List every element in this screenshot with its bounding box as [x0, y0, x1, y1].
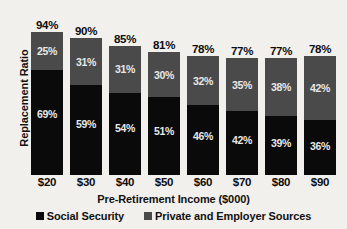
- bar-segment-label: 39%: [265, 137, 297, 149]
- legend-entry-social-security: Social Security: [36, 210, 124, 222]
- x-axis-tick-label: $50: [148, 176, 180, 188]
- legend-label-private-employer: Private and Employer Sources: [155, 210, 311, 222]
- legend-swatch-social-security: [36, 212, 44, 220]
- bar-total-label: 90%: [70, 25, 102, 37]
- bar-segment-social-security: 39%: [265, 116, 297, 175]
- bar-segment-label: 30%: [148, 68, 180, 80]
- bar-segment-label: 59%: [70, 118, 102, 130]
- bar-segment-label: 54%: [109, 122, 141, 134]
- x-axis-tick-labels: $20$30$40$50$60$70$80$90: [30, 176, 343, 192]
- bar-column: 31%59%: [70, 38, 102, 175]
- bar-segment-private-employer: 31%: [109, 46, 141, 93]
- x-axis-tick-label: $40: [109, 176, 141, 188]
- bar-segment-private-employer: 31%: [70, 38, 102, 85]
- bar-segment-label: 25%: [31, 45, 63, 57]
- bar-total-label: 85%: [109, 33, 141, 45]
- bar-column: 42%36%: [304, 56, 336, 175]
- bar-segment-social-security: 51%: [148, 97, 180, 175]
- y-axis-title: Replacement Ratio: [18, 28, 30, 168]
- bar-column: 32%46%: [187, 56, 219, 175]
- bar-column: 38%39%: [265, 58, 297, 175]
- legend-entry-private-employer: Private and Employer Sources: [144, 210, 311, 222]
- bar-segment-private-employer: 32%: [187, 56, 219, 105]
- bar-total-label: 78%: [304, 43, 336, 55]
- bar-total-label: 81%: [148, 39, 180, 51]
- bar-segment-label: 42%: [226, 134, 258, 146]
- x-axis-tick-label: $90: [304, 176, 336, 188]
- bar-segment-private-employer: 35%: [226, 58, 258, 111]
- bar-segment-social-security: 42%: [226, 111, 258, 175]
- bar-segment-label: 36%: [304, 140, 336, 152]
- x-axis-tick-label: $80: [265, 176, 297, 188]
- bar-segment-label: 51%: [148, 125, 180, 137]
- x-axis-tick-label: $30: [70, 176, 102, 188]
- chart-legend: Social Security Private and Employer Sou…: [0, 210, 347, 222]
- bar-segment-label: 32%: [187, 75, 219, 87]
- bar-segment-label: 31%: [109, 63, 141, 75]
- bar-column: 30%51%: [148, 52, 180, 175]
- bar-total-label: 94%: [31, 19, 63, 31]
- bar-segment-label: 35%: [226, 78, 258, 90]
- bar-total-label: 77%: [265, 45, 297, 57]
- x-axis-tick-label: $20: [31, 176, 63, 188]
- legend-label-social-security: Social Security: [47, 210, 124, 222]
- bar-segment-label: 69%: [31, 108, 63, 120]
- bar-segment-social-security: 46%: [187, 105, 219, 175]
- bar-segment-private-employer: 25%: [31, 32, 63, 70]
- bar-segment-social-security: 36%: [304, 120, 336, 175]
- plot-area: 94%25%69%90%31%59%85%31%54%81%30%51%78%3…: [30, 8, 343, 175]
- bar-segment-private-employer: 30%: [148, 52, 180, 98]
- stacked-bar-chart: Replacement Ratio 94%25%69%90%31%59%85%3…: [0, 0, 347, 229]
- bar-total-label: 77%: [226, 45, 258, 57]
- x-axis-title: Pre-Retirement Income ($000): [0, 193, 347, 205]
- bar-segment-label: 38%: [265, 81, 297, 93]
- x-axis-tick-label: $70: [226, 176, 258, 188]
- x-axis-tick-label: $60: [187, 176, 219, 188]
- bar-segment-social-security: 59%: [70, 85, 102, 175]
- legend-swatch-private-employer: [144, 212, 152, 220]
- bar-segment-social-security: 54%: [109, 93, 141, 175]
- bar-column: 35%42%: [226, 58, 258, 175]
- bar-column: 31%54%: [109, 46, 141, 175]
- bar-segment-private-employer: 42%: [304, 56, 336, 120]
- bar-total-label: 78%: [187, 43, 219, 55]
- bar-segment-label: 46%: [187, 130, 219, 142]
- bar-column: 25%69%: [31, 32, 63, 175]
- bar-segment-social-security: 69%: [31, 70, 63, 175]
- bar-segment-label: 42%: [304, 82, 336, 94]
- bar-segment-private-employer: 38%: [265, 58, 297, 116]
- bar-segment-label: 31%: [70, 56, 102, 68]
